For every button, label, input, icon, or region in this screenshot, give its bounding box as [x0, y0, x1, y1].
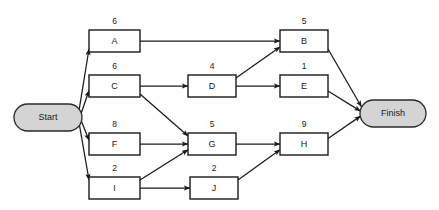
- activity-duration-G: 5: [210, 119, 215, 129]
- terminal-node-finish[interactable]: Finish: [360, 100, 426, 127]
- edge-start-to-I: [79, 125, 89, 180]
- activity-label-H: H: [301, 139, 308, 149]
- activity-duration-I: 2: [112, 163, 117, 173]
- edge-C-to-G: [140, 94, 188, 136]
- terminal-node-start[interactable]: Start: [14, 104, 82, 131]
- activity-node-G[interactable]: G5: [188, 119, 236, 155]
- activity-label-A: A: [111, 36, 117, 46]
- edge-D-to-B: [236, 47, 280, 78]
- activity-label-D: D: [209, 81, 216, 91]
- activity-node-J[interactable]: J2: [190, 163, 238, 199]
- activity-duration-D: 4: [210, 61, 215, 71]
- edge-H-to-finish: [328, 116, 361, 138]
- activity-node-F[interactable]: F8: [89, 119, 140, 155]
- activity-label-F: F: [112, 139, 118, 149]
- edge-J-to-H: [238, 150, 280, 180]
- activity-node-B[interactable]: B5: [280, 16, 328, 52]
- activity-label-E: E: [301, 81, 307, 91]
- activity-label-J: J: [212, 183, 217, 193]
- activity-node-C[interactable]: C6: [89, 61, 140, 97]
- edge-start-to-F: [81, 120, 89, 140]
- activity-node-H[interactable]: H9: [280, 119, 328, 155]
- network-diagram-svg: A6C6F8I2D4G5J2B5E1H9StartFinish: [0, 0, 439, 210]
- edge-start-to-A: [79, 49, 89, 109]
- network-diagram-canvas: A6C6F8I2D4G5J2B5E1H9StartFinish: [0, 0, 439, 210]
- terminal-label-finish: Finish: [381, 108, 405, 118]
- activity-node-I[interactable]: I2: [89, 163, 140, 199]
- activity-duration-B: 5: [302, 16, 307, 26]
- activity-duration-E: 1: [302, 61, 307, 71]
- edge-B-to-finish: [328, 49, 361, 107]
- activity-node-E[interactable]: E1: [280, 61, 328, 97]
- activity-label-I: I: [113, 183, 116, 193]
- edge-I-to-G: [140, 150, 188, 180]
- nodes-layer: A6C6F8I2D4G5J2B5E1H9StartFinish: [14, 16, 426, 199]
- activity-label-G: G: [208, 139, 215, 149]
- activity-node-A[interactable]: A6: [89, 16, 140, 52]
- activity-duration-C: 6: [112, 61, 117, 71]
- edge-E-to-finish: [328, 91, 361, 111]
- terminal-label-start: Start: [38, 112, 58, 122]
- activity-label-B: B: [301, 36, 307, 46]
- activity-duration-J: 2: [212, 163, 217, 173]
- edges-layer: [79, 41, 361, 188]
- activity-duration-A: 6: [112, 16, 117, 26]
- activity-label-C: C: [111, 81, 118, 91]
- activity-duration-H: 9: [302, 119, 307, 129]
- activity-node-D[interactable]: D4: [188, 61, 236, 97]
- activity-duration-F: 8: [112, 119, 117, 129]
